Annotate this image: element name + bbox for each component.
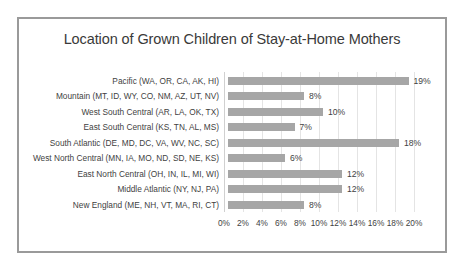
bar-value-label: 12% — [347, 169, 364, 179]
x-tick-label: 12% — [330, 218, 347, 228]
x-tick-label: 4% — [256, 218, 268, 228]
bar-value-label: 7% — [300, 122, 312, 132]
bar — [228, 92, 304, 100]
bar-series: Pacific (WA, OR, CA, AK, HI)19%Mountain … — [224, 72, 414, 212]
bar — [228, 154, 285, 162]
category-label: East North Central (OH, IN, IL, MI, WI) — [77, 169, 219, 179]
bar-row: East South Central (KS, TN, AL, MS)7% — [224, 120, 414, 136]
category-label: West South Central (AR, LA, OK, TX) — [81, 107, 219, 117]
x-tick-label: 14% — [349, 218, 366, 228]
category-label: West North Central (MN, IA, MO, ND, SD, … — [33, 153, 219, 163]
bar-value-label: 10% — [328, 107, 345, 117]
bar — [228, 170, 342, 178]
category-label: Mountain (MT, ID, WY, CO, NM, AZ, UT, NV… — [56, 91, 219, 101]
bar — [228, 201, 304, 209]
bar-row: Pacific (WA, OR, CA, AK, HI)19% — [224, 73, 414, 89]
category-label: East South Central (KS, TN, AL, MS) — [84, 122, 219, 132]
x-tick-label: 6% — [275, 218, 287, 228]
bar-value-label: 19% — [414, 76, 431, 86]
x-axis: 0%2%4%6%8%10%12%14%16%18%20% — [224, 218, 414, 232]
bar — [228, 185, 342, 193]
plot-area: Pacific (WA, OR, CA, AK, HI)19%Mountain … — [224, 72, 414, 212]
bar — [228, 139, 399, 147]
x-tick-label: 20% — [406, 218, 423, 228]
x-tick-label: 0% — [218, 218, 230, 228]
category-label: Middle Atlantic (NY, NJ, PA) — [117, 184, 219, 194]
bar-value-label: 18% — [404, 138, 421, 148]
chart-title: Location of Grown Children of Stay-at-Ho… — [19, 31, 445, 47]
chart-container: Location of Grown Children of Stay-at-Ho… — [17, 17, 447, 253]
bar-value-label: 8% — [309, 91, 321, 101]
bar — [228, 123, 295, 131]
x-tick-label: 2% — [237, 218, 249, 228]
category-label: New England (ME, NH, VT, MA, RI, CT) — [73, 200, 219, 210]
x-tick-label: 16% — [368, 218, 385, 228]
bar-value-label: 8% — [309, 200, 321, 210]
bar-row: South Atlantic (DE, MD, DC, VA, WV, NC, … — [224, 135, 414, 151]
x-tick-label: 18% — [387, 218, 404, 228]
bar — [228, 77, 409, 85]
bar-row: Mountain (MT, ID, WY, CO, NM, AZ, UT, NV… — [224, 89, 414, 105]
bar-row: East North Central (OH, IN, IL, MI, WI)1… — [224, 166, 414, 182]
bar-value-label: 12% — [347, 184, 364, 194]
bar-row: New England (ME, NH, VT, MA, RI, CT)8% — [224, 197, 414, 213]
screenshot-root: Location of Grown Children of Stay-at-Ho… — [0, 0, 464, 274]
category-label: South Atlantic (DE, MD, DC, VA, WV, NC, … — [50, 138, 219, 148]
bar-row: West South Central (AR, LA, OK, TX)10% — [224, 104, 414, 120]
category-label: Pacific (WA, OR, CA, AK, HI) — [112, 76, 219, 86]
bar-value-label: 6% — [290, 153, 302, 163]
bar-row: West North Central (MN, IA, MO, ND, SD, … — [224, 151, 414, 167]
x-tick-label: 8% — [294, 218, 306, 228]
bar — [228, 108, 323, 116]
bar-row: Middle Atlantic (NY, NJ, PA)12% — [224, 182, 414, 198]
x-tick-label: 10% — [311, 218, 328, 228]
